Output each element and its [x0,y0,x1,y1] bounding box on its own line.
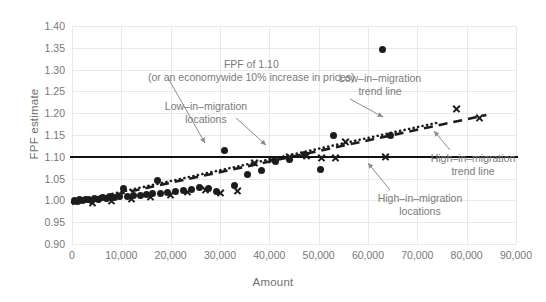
y-tick-label: 1.30 [45,64,65,76]
x-tick-label: 20,000 [155,249,187,261]
y-tick-label: 1.20 [45,107,65,119]
y-tick-label: 0.95 [45,216,65,228]
annotation-high-trend: High–in–migration trend line [418,152,528,178]
annotation-fpf-line1: FPF of 1.10 [148,58,355,71]
annotation-low-locations-line1: Low–in–migration [146,100,266,113]
annotation-low-locations: Low–in–migration locations [146,100,266,126]
data-point-high-in-migration [250,158,259,167]
annotation-low-trend-line1: Low–in–migration [330,72,430,85]
annotation-high-locations-line1: High–in–migration [358,192,482,205]
y-tick-label: 1.05 [45,173,65,185]
x-tick-label: 90,000 [500,249,532,261]
x-tick-label: 70,000 [401,249,433,261]
data-point-high-in-migration [452,104,461,113]
data-point-high-in-migration [341,137,350,146]
data-point-low-in-migration [120,185,127,192]
y-tick-label: 1.00 [45,194,65,206]
annotation-low-locations-line2: locations [146,113,266,126]
annotation-high-locations-line2: locations [358,205,482,218]
annotation-fpf: FPF of 1.10 (or an economywide 10% incre… [148,58,355,84]
annotation-fpf-line2: (or an economywide 10% increase in price… [148,71,355,84]
data-point-low-in-migration [116,193,123,200]
annotation-high-locations: High–in–migration locations [358,192,482,218]
data-point-high-in-migration [216,188,225,197]
annotation-low-trend-line2: trend line [330,85,430,98]
y-tick-label: 1.15 [45,129,65,141]
y-axis-title: FPF estimate [28,44,40,204]
data-point-high-in-migration [381,152,390,161]
y-tick-label: 1.10 [45,151,65,163]
data-point-high-in-migration [302,151,311,160]
data-point-high-in-migration [146,192,155,201]
data-point-high-in-migration [127,194,136,203]
data-point-high-in-migration [285,152,294,161]
data-point-high-in-migration [183,187,192,196]
y-tick-label: 0.90 [45,238,65,250]
data-point-high-in-migration [475,113,484,122]
data-point-high-in-migration [331,153,340,162]
annotation-high-trend-line2: trend line [418,165,528,178]
x-tick-label: 0 [69,249,75,261]
annotation-low-trend: Low–in–migration trend line [330,72,430,98]
y-tick-label: 1.35 [45,42,65,54]
x-axis-title: Amount [0,276,546,288]
x-tick-label: 40,000 [253,249,285,261]
x-tick-label: 50,000 [303,249,335,261]
x-tick-label: 80,000 [451,249,483,261]
data-point-high-in-migration [233,186,242,195]
data-point-high-in-migration [166,190,175,199]
data-point-low-in-migration [157,190,164,197]
data-point-high-in-migration [107,196,116,205]
x-tick-label: 30,000 [204,249,236,261]
data-point-low-in-migration [244,171,251,178]
data-point-high-in-migration [201,185,210,194]
data-point-high-in-migration [267,155,276,164]
y-tick-label: 1.25 [45,85,65,97]
x-tick-label: 60,000 [352,249,384,261]
data-point-high-in-migration [88,198,97,207]
y-tick-label: 1.40 [45,20,65,32]
x-gridline [516,26,517,244]
y-gridline [72,244,516,245]
data-point-low-in-migration [330,132,337,139]
x-tick-label: 10,000 [105,249,137,261]
chart-figure: FPF estimate Amount 010,00020,00030,0004… [0,0,546,302]
data-point-high-in-migration [317,153,326,162]
annotation-high-trend-line1: High–in–migration [418,152,528,165]
